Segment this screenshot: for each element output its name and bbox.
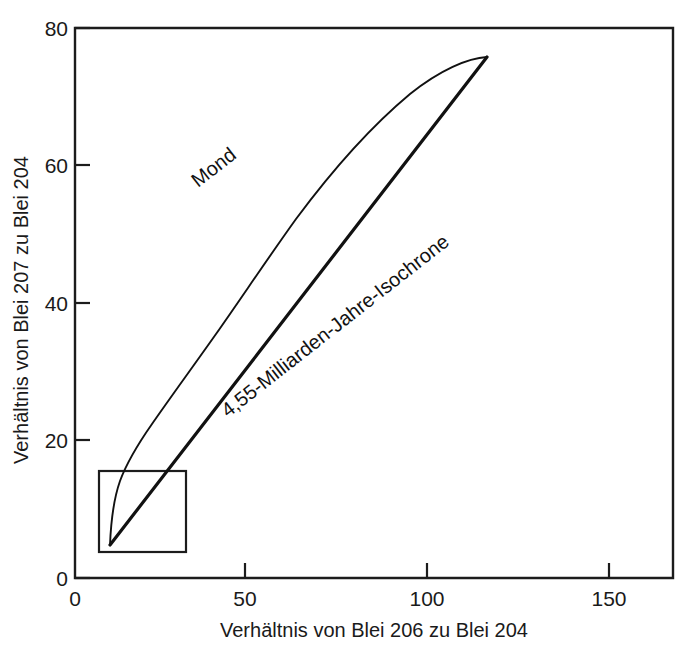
x-tick-label-100: 100 (409, 587, 444, 610)
x-axis-ticks (245, 563, 609, 578)
x-tick-label-150: 150 (591, 587, 626, 610)
y-tick-label-80: 80 (45, 17, 68, 40)
moon-curve-label: Mond (187, 143, 240, 191)
x-tick-label-50: 50 (233, 587, 256, 610)
y-axis-ticks (75, 28, 90, 578)
y-tick-label-40: 40 (45, 292, 68, 315)
x-tick-label-0: 0 (69, 587, 81, 610)
x-axis-tick-labels: 0 50 100 150 (69, 587, 626, 610)
y-axis-tick-labels: 80 60 40 20 0 (45, 17, 68, 590)
lead-isotope-chart: 80 60 40 20 0 0 50 100 150 Verhältnis vo… (0, 0, 694, 647)
y-tick-label-0: 0 (56, 567, 68, 590)
x-axis-title: Verhältnis von Blei 206 zu Blei 204 (220, 619, 528, 641)
y-tick-label-60: 60 (45, 154, 68, 177)
isochrone-line (110, 57, 487, 545)
y-axis-title: Verhältnis von Blei 207 zu Blei 204 (10, 156, 32, 464)
chart-page: 80 60 40 20 0 0 50 100 150 Verhältnis vo… (0, 0, 694, 647)
y-tick-label-20: 20 (45, 429, 68, 452)
isochrone-label: 4,55-Milliarden-Jahre-Isochrone (217, 230, 453, 421)
